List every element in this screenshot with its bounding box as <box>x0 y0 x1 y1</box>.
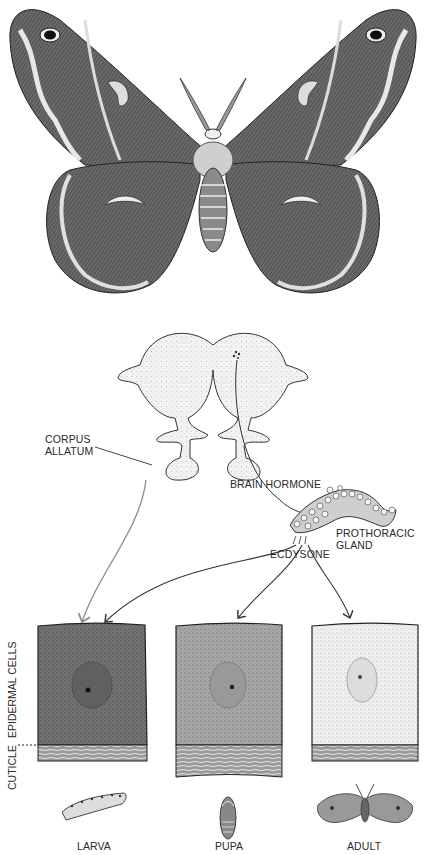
corpus-allatum-label: CORPUS ALLATUM <box>45 433 93 457</box>
prothoracic-gland-illustration <box>290 486 396 533</box>
juvenile-hormone-arrow <box>82 480 146 622</box>
brain-illustration <box>118 333 308 480</box>
larva-icon <box>62 793 126 820</box>
illustration-canvas <box>0 0 426 855</box>
moth-antenna-left <box>180 78 210 130</box>
stage-label-pupa: PUPA <box>215 840 243 852</box>
right-hindwing <box>226 162 379 293</box>
adult-moth-icon <box>317 784 412 823</box>
cuticle-side-label: CUTICLE <box>6 745 18 790</box>
epidermal-cells-side-label: EPIDERMAL CELLS <box>6 642 18 738</box>
corpus-allatum-label-line1: CORPUS <box>45 433 93 445</box>
prothoracic-gland-label-line2: GLAND <box>336 539 415 551</box>
brain-hormone-label: BRAIN HORMONE <box>230 478 321 490</box>
ecdysone-label: ECDYSONE <box>270 548 330 560</box>
ecdysone-arrow-larva <box>105 545 296 622</box>
corpus-allatum-leader <box>95 447 152 465</box>
stage-label-adult: ADULT <box>347 840 381 852</box>
corpus-allatum-label-line2: ALLATUM <box>45 445 93 457</box>
larva-cell-panel <box>38 623 147 761</box>
prothoracic-gland-label: PROTHORACIC GLAND <box>336 527 415 551</box>
stage-label-larva: LARVA <box>77 840 111 852</box>
prothoracic-gland-label-line1: PROTHORACIC <box>336 527 415 539</box>
pupa-cell-panel <box>176 623 282 777</box>
adult-cell-panel <box>312 623 418 761</box>
left-hindwing <box>47 162 200 293</box>
moth-antenna-right <box>216 78 246 130</box>
pupa-icon <box>220 797 236 839</box>
cecropia-moth-illustration <box>10 10 416 293</box>
